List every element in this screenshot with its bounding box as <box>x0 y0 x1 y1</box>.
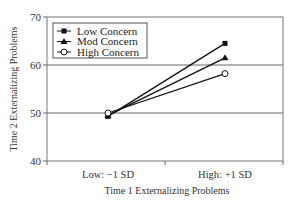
y-tick-label: 70 <box>30 11 42 23</box>
legend-label: High Concern <box>77 46 140 58</box>
x-tick-label: Low: −1 SD <box>82 169 134 180</box>
data-point-marker <box>222 54 229 60</box>
y-axis-label: Time 2 Externalizing Problems <box>8 26 19 151</box>
series-high-concern <box>105 71 228 116</box>
y-axis-ticks: 40506070 <box>30 11 47 167</box>
x-tick-label: High: +1 SD <box>198 169 252 180</box>
data-point-marker <box>222 71 228 77</box>
y-tick-label: 50 <box>30 107 42 119</box>
circle-icon <box>61 49 67 55</box>
line-chart: 40506070 Low: −1 SDHigh: +1 SD Time 2 Ex… <box>0 0 297 209</box>
x-axis-label: Time 1 Externalizing Problems <box>105 185 230 196</box>
data-point-marker <box>105 110 111 116</box>
x-axis-ticks: Low: −1 SDHigh: +1 SD <box>47 161 283 180</box>
y-tick-label: 60 <box>30 59 42 71</box>
legend: Low ConcernMod ConcernHigh Concern <box>53 23 147 58</box>
data-point-marker <box>223 41 228 46</box>
y-tick-label: 40 <box>30 155 42 167</box>
square-icon <box>62 29 67 34</box>
